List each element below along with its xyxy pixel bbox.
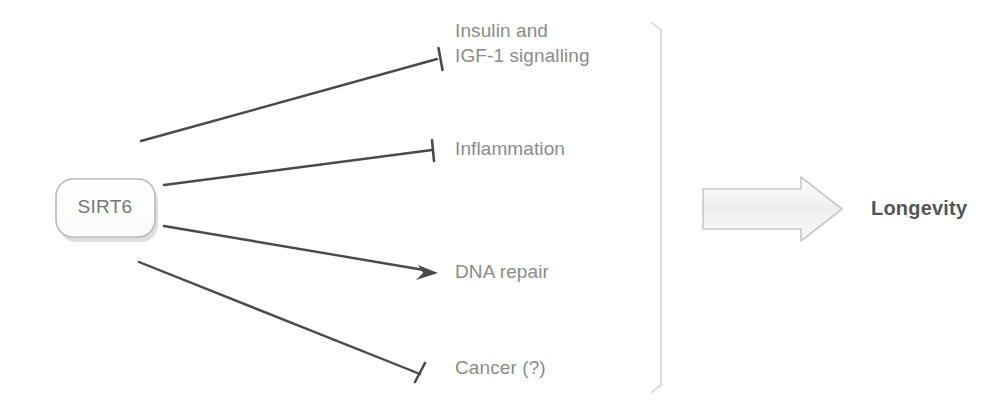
edge-dna-repair-arrowhead-icon	[416, 265, 438, 280]
target-label-inflammation: Inflammation	[455, 136, 565, 161]
diagram-canvas: SIRT6 Insulin andIGF-1 signalling Inflam…	[0, 0, 990, 415]
target-label-insulin-line1: Insulin and	[455, 20, 548, 41]
longevity-block-arrow-icon	[703, 177, 842, 241]
edge-dna-repair-line	[164, 226, 424, 270]
edge-cancer-line	[139, 262, 420, 374]
edge-inflammation	[164, 140, 434, 185]
edge-inflammation-tbar-icon	[432, 140, 434, 161]
edge-insulin-line	[141, 59, 437, 141]
edge-dna-repair	[164, 226, 438, 280]
target-label-insulin-line2: IGF-1 signalling	[455, 45, 590, 66]
edge-insulin	[141, 48, 443, 141]
longevity-label: Longevity	[871, 197, 967, 220]
target-label-dna-repair: DNA repair	[455, 259, 549, 284]
target-label-cancer: Cancer (?)	[455, 355, 546, 380]
edge-insulin-tbar-icon	[439, 48, 443, 70]
edge-cancer	[139, 262, 425, 382]
sirt6-node-label: SIRT6	[55, 196, 155, 218]
target-label-insulin: Insulin andIGF-1 signalling	[455, 18, 590, 68]
grouping-bracket	[652, 23, 661, 392]
edge-inflammation-line	[164, 150, 432, 185]
